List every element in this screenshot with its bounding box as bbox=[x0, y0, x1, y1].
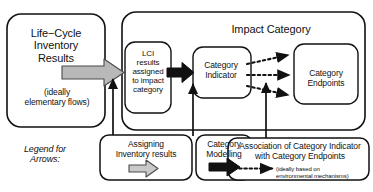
impact-category-title: Impact Category bbox=[196, 23, 346, 35]
category-indicator-label: Category Indicator bbox=[196, 61, 246, 80]
diagram-canvas: Life−Cycle Inventory Results (ideally el… bbox=[0, 0, 373, 192]
lci-results-title: Life−Cycle Inventory Results bbox=[14, 27, 98, 64]
category-endpoints-label: Category Endpoints bbox=[300, 69, 352, 88]
legend-item-association-label: Association of Category Indicator with C… bbox=[232, 142, 368, 161]
legend-item-association-sublabel: (ideally based on environmental mechanis… bbox=[276, 166, 368, 180]
lci-assigned-label: LCI results assigned to impact category bbox=[127, 50, 169, 95]
lci-results-subtitle: (ideally elementary flows) bbox=[14, 88, 100, 107]
legend-item-assigning-label: Assigning Inventory results bbox=[104, 140, 188, 159]
legend-heading: Legend for Arrows: bbox=[6, 144, 84, 164]
